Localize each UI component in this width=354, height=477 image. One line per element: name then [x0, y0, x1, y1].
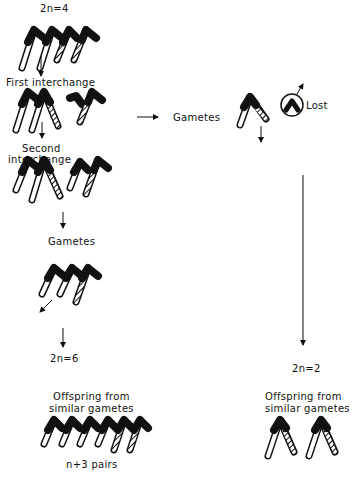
label-2n2: 2n=2 [292, 363, 321, 374]
arrow-diagonal [40, 300, 52, 312]
row-offspring-left-chromosomes [44, 420, 148, 450]
row-offspring-right-chromosomes [268, 420, 335, 456]
label-gametes-right: Gametes [173, 112, 220, 123]
label-gametes-left: Gametes [48, 236, 95, 247]
label-first-interchange: First interchange [6, 77, 95, 88]
arrow-up-out [297, 84, 303, 94]
label-offspring-left-1: Offspring from [53, 391, 130, 402]
row-first-interchange-chromosomes [16, 92, 102, 130]
label-n3-pairs: n+3 pairs [66, 459, 118, 470]
label-lost: Lost [306, 100, 328, 111]
row-second-interchange-chromosomes [16, 160, 108, 200]
label-offspring-right-1: Offspring from [265, 391, 342, 402]
right-gamete-chromosome [240, 97, 266, 125]
label-2n4: 2n=4 [40, 3, 69, 14]
label-interchange: interchange [8, 154, 71, 165]
label-offspring-right-2: similar gametes [265, 403, 350, 414]
label-2n6: 2n=6 [50, 353, 79, 364]
row-2n4-chromosomes [22, 30, 96, 68]
row-gametes-chromosomes [42, 268, 98, 302]
label-second: Second [22, 143, 61, 154]
lost-fragment [281, 94, 303, 116]
label-offspring-left-2: similar gametes [49, 403, 134, 414]
